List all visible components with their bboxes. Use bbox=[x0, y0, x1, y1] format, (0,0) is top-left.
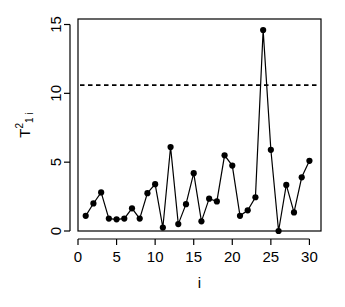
x-tick-label: 10 bbox=[147, 248, 164, 265]
x-tick-label: 20 bbox=[224, 248, 241, 265]
x-axis-title-text: i bbox=[198, 274, 201, 291]
x-tick-label: 25 bbox=[263, 248, 280, 265]
y-tick-label: 5 bbox=[47, 158, 64, 166]
chart-figure: 051015202530 051015 i T21 i bbox=[0, 0, 345, 307]
x-tick-label: 15 bbox=[185, 248, 202, 265]
x-axis-title: i bbox=[198, 274, 201, 291]
y-tick-label: 10 bbox=[47, 85, 64, 102]
chart-background bbox=[0, 0, 345, 307]
y-tick-label: 15 bbox=[47, 16, 64, 33]
x-tick-label: 5 bbox=[112, 248, 120, 265]
x-tick-label: 0 bbox=[74, 248, 82, 265]
y-tick-label: 0 bbox=[47, 227, 64, 235]
line-chart-canvas: 051015202530 051015 i T21 i bbox=[0, 0, 345, 307]
x-tick-label: 30 bbox=[301, 248, 318, 265]
